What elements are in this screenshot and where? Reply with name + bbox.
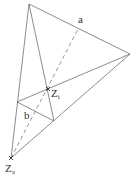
edge-left-mid-right [17,54,130,102]
dashed-line-za-a [11,29,78,158]
geometry-diagram: a b Zi Za [0,0,136,177]
label-zi-sub: i [58,93,60,101]
label-a: a [78,13,83,25]
label-za: Za [5,162,16,176]
edge-top-za [11,4,29,158]
label-zi: Zi [51,87,60,101]
edge-top-right [29,4,130,54]
label-za-sub: a [12,168,16,176]
edge-top-bottom-mid [29,4,54,121]
edge-za-right [11,54,130,158]
label-b: b [24,109,30,121]
